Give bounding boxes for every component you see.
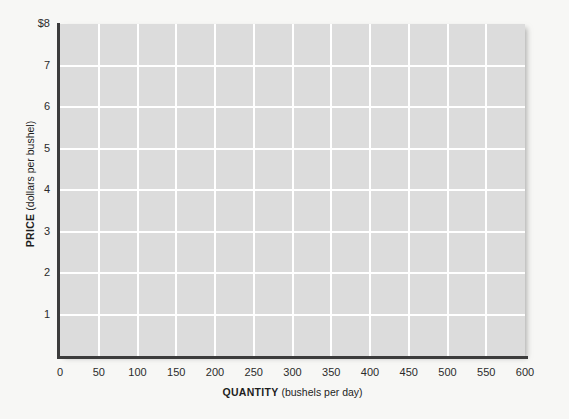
x-axis-tick-label: 450 xyxy=(387,366,431,378)
gridline-horizontal xyxy=(60,65,525,67)
x-axis-tick-label: 250 xyxy=(232,366,276,378)
gridline-horizontal xyxy=(60,314,525,316)
y-axis-tick-label: $8 xyxy=(8,17,50,29)
gridline-horizontal xyxy=(60,106,525,108)
x-axis-tick-label: 50 xyxy=(77,366,121,378)
x-axis-tick-label: 300 xyxy=(271,366,315,378)
x-axis-title-bold: QUANTITY xyxy=(222,386,278,398)
x-axis-tick-label: 500 xyxy=(426,366,470,378)
x-axis-tick-label: 400 xyxy=(348,366,392,378)
x-axis-tick-label: 350 xyxy=(309,366,353,378)
gridline-horizontal xyxy=(60,231,525,233)
x-axis-tick-label: 600 xyxy=(503,366,547,378)
gridline-horizontal xyxy=(60,272,525,274)
y-axis-title: PRICE (dollars per bushel) xyxy=(24,84,36,284)
y-axis-tick-label: 1 xyxy=(8,308,50,320)
y-axis-line xyxy=(57,23,60,359)
plot-area xyxy=(60,24,525,356)
grid-layer xyxy=(60,24,525,356)
x-axis-tick-label: 0 xyxy=(38,366,82,378)
x-axis-title-unit: (bushels per day) xyxy=(281,386,362,398)
x-axis-tick-label: 150 xyxy=(154,366,198,378)
y-axis-title-bold: PRICE xyxy=(24,214,36,248)
gridline-horizontal xyxy=(60,189,525,191)
y-axis-title-unit: (dollars per bushel) xyxy=(24,121,36,211)
x-axis-tick-label: 200 xyxy=(193,366,237,378)
y-axis-tick-label: 7 xyxy=(8,59,50,71)
x-axis-tick-label: 550 xyxy=(464,366,508,378)
gridline-horizontal xyxy=(60,148,525,150)
x-axis-tick-label: 100 xyxy=(116,366,160,378)
x-axis-line xyxy=(57,356,528,359)
chart-figure: 1234567$8 050100150200250300350400450500… xyxy=(0,0,569,419)
x-axis-title: QUANTITY (bushels per day) xyxy=(60,386,525,398)
